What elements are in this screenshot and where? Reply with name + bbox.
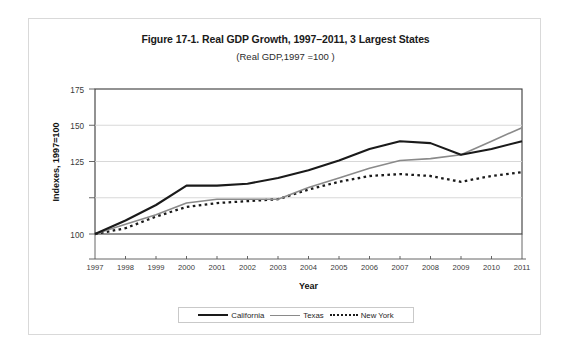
legend-swatch-texas-line-icon <box>270 315 300 316</box>
legend-item-texas: Texas <box>270 311 323 320</box>
legend-swatch-california-line-icon <box>198 314 228 316</box>
legend-label-california: California <box>231 311 264 320</box>
y-tick-label-125: 125 <box>70 158 84 167</box>
x-tick-label-2011: 2011 <box>514 263 530 272</box>
x-tick-labels: 1997 1998 1999 2000 2001 2002 2003 2004 … <box>87 263 531 272</box>
x-tick-label-1998: 1998 <box>117 263 134 272</box>
x-tick-label-2000: 2000 <box>178 263 195 272</box>
x-tick-label-1999: 1999 <box>148 263 165 272</box>
x-tick-label-1997: 1997 <box>87 263 104 272</box>
figure-frame: Figure 17-1. Real GDP Growth, 1997–2011,… <box>28 18 541 335</box>
y-tick-labels: 175 150 125 100 <box>70 86 84 240</box>
legend-item-california: California <box>198 311 264 320</box>
chart-plot: 175 150 125 100 Indexes, 1997=100 199 <box>29 19 542 336</box>
x-axis-ticks <box>89 234 526 259</box>
y-tick-label-150: 150 <box>70 122 84 131</box>
x-tick-label-2003: 2003 <box>270 263 287 272</box>
x-tick-label-2002: 2002 <box>239 263 256 272</box>
y-axis-ticks <box>89 89 95 234</box>
x-tick-label-2005: 2005 <box>331 263 348 272</box>
x-tick-label-2004: 2004 <box>300 263 317 272</box>
y-tick-label-175: 175 <box>70 86 84 95</box>
x-tick-label-2009: 2009 <box>453 263 470 272</box>
y-tick-label-100: 100 <box>70 231 84 240</box>
legend-label-texas: Texas <box>303 311 323 320</box>
chart-legend: California Texas New York <box>178 307 414 323</box>
x-tick-label-2001: 2001 <box>209 263 226 272</box>
x-axis-title: Year <box>299 281 319 291</box>
legend-label-new-york: New York <box>361 311 394 320</box>
x-tick-label-2008: 2008 <box>422 263 439 272</box>
x-tick-label-2010: 2010 <box>483 263 500 272</box>
legend-item-new-york: New York <box>330 311 394 320</box>
x-tick-label-2006: 2006 <box>361 263 378 272</box>
y-axis-title: Indexes, 1997=100 <box>51 123 61 202</box>
x-tick-label-2007: 2007 <box>392 263 409 272</box>
legend-swatch-new-york-line-icon <box>330 314 358 316</box>
